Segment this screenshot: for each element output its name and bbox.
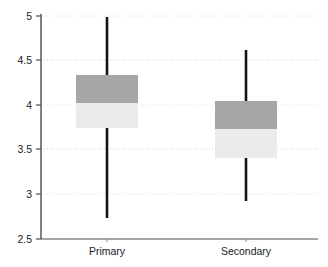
box-lower-primary	[76, 103, 138, 128]
chart-canvas: 5 4.5 4 3.5 3 2.5 Primary	[0, 0, 328, 267]
x-category-label-secondary: Secondary	[221, 245, 272, 257]
y-tick-label: 3.5	[17, 143, 32, 155]
box-lower-secondary	[215, 129, 277, 158]
x-category-label-primary: Primary	[89, 245, 126, 257]
chart-background	[0, 0, 328, 267]
y-tick-label: 4	[26, 99, 32, 111]
box-upper-primary	[76, 75, 138, 103]
y-tick-label: 5	[26, 10, 32, 22]
box-upper-secondary	[215, 101, 277, 129]
y-tick-label: 2.5	[17, 233, 32, 245]
box-plot-chart: 5 4.5 4 3.5 3 2.5 Primary	[0, 0, 328, 267]
y-tick-label: 4.5	[17, 54, 32, 66]
y-tick-label: 3	[26, 188, 32, 200]
